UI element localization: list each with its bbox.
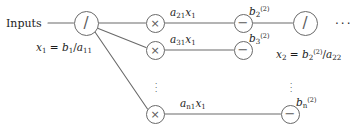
node-divide-right[interactable]: /: [293, 11, 318, 36]
vertical-ellipsis-right: ...: [287, 80, 295, 92]
multiply-icon: ×: [150, 109, 159, 120]
divide-icon: /: [302, 15, 307, 30]
node-multiply-1[interactable]: ×: [146, 14, 165, 33]
diagram-canvas: / × × × − − − / Inputs x1 = b1/a11 a21x1…: [0, 0, 362, 133]
edge-label-a31x1: a31x1: [170, 34, 196, 45]
edge-div-left-to-mul-n: [95, 32, 148, 109]
inputs-label: Inputs: [6, 18, 42, 29]
multiply-icon: ×: [150, 45, 159, 56]
horizontal-ellipsis: ···: [335, 18, 352, 30]
equation-x1: x1 = b1/a11: [36, 42, 92, 53]
edge-label-a21x1: a21x1: [170, 7, 196, 18]
multiply-icon: ×: [150, 18, 159, 29]
minus-icon: −: [285, 107, 296, 120]
divide-icon: /: [83, 15, 88, 30]
edge-label-b2: b2(2): [249, 6, 270, 17]
edge-label-bn: bn(2): [296, 97, 317, 108]
node-multiply-n[interactable]: ×: [146, 105, 165, 124]
edge-label-b3: b3(2): [249, 33, 270, 44]
node-divide-left[interactable]: /: [74, 11, 99, 36]
vertical-ellipsis-left: ...: [152, 80, 160, 92]
equation-x2: x2 = b2(2)/a22: [276, 49, 341, 60]
node-multiply-2[interactable]: ×: [146, 41, 165, 60]
minus-icon: −: [238, 43, 249, 56]
edge-label-an1x1: an1x1: [180, 98, 206, 109]
minus-icon: −: [238, 16, 249, 29]
edge-div-left-to-mul-2: [97, 28, 146, 48]
